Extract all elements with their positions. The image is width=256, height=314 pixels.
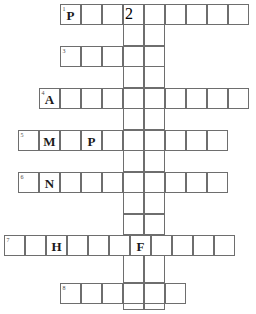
crossword-cell[interactable] [228, 88, 249, 109]
clue-number: 8 [63, 285, 66, 291]
crossword-cell[interactable] [186, 4, 207, 25]
crossword-cell[interactable] [102, 4, 123, 25]
crossword-cell[interactable] [207, 4, 228, 25]
clue-number: 7 [7, 237, 10, 243]
crossword-cell[interactable]: 7 [4, 235, 25, 256]
crossword-cell[interactable] [102, 88, 123, 109]
crossword-cell[interactable] [123, 283, 144, 304]
crossword-cell[interactable]: 3 [60, 46, 81, 67]
crossword-cell[interactable] [172, 235, 193, 256]
crossword-cell[interactable]: 8 [60, 283, 81, 304]
down-word-segment[interactable] [144, 214, 165, 235]
crossword-cell[interactable] [123, 88, 144, 109]
cell-letter: P [61, 9, 80, 22]
crossword-cell[interactable] [109, 235, 130, 256]
crossword-cell[interactable] [102, 283, 123, 304]
crossword-cell[interactable] [165, 4, 186, 25]
crossword-cell[interactable] [60, 130, 81, 151]
crossword-cell[interactable]: 4A [39, 88, 60, 109]
crossword-cell[interactable] [102, 46, 123, 67]
crossword-cell[interactable]: N [39, 172, 60, 193]
crossword-cell[interactable] [186, 172, 207, 193]
crossword-cell[interactable] [214, 235, 235, 256]
crossword-cell[interactable]: 5 [18, 130, 39, 151]
crossword-cell[interactable] [186, 88, 207, 109]
cell-letter: P [82, 135, 101, 148]
cell-letter: A [40, 93, 59, 106]
crossword-cell[interactable] [165, 172, 186, 193]
cell-letter: M [40, 135, 59, 148]
crossword-cell[interactable] [144, 172, 165, 193]
crossword-cell[interactable] [144, 46, 165, 67]
crossword-cell[interactable] [207, 130, 228, 151]
down-word-segment[interactable] [123, 214, 144, 235]
clue-number: 3 [63, 48, 66, 54]
clue-number: 5 [21, 132, 24, 138]
clue-number: 6 [21, 174, 24, 180]
cell-letter: F [131, 240, 150, 253]
crossword-cell[interactable] [123, 172, 144, 193]
crossword-cell[interactable] [81, 88, 102, 109]
cell-letter: N [40, 177, 59, 190]
crossword-cell[interactable]: M [39, 130, 60, 151]
clue-number: 2 [125, 5, 133, 23]
crossword-cell[interactable] [25, 235, 46, 256]
crossword-cell[interactable] [81, 4, 102, 25]
crossword-cell[interactable] [186, 130, 207, 151]
crossword-cell[interactable] [67, 235, 88, 256]
crossword-cell[interactable] [123, 130, 144, 151]
crossword-cell[interactable] [60, 172, 81, 193]
crossword-cell[interactable] [102, 130, 123, 151]
crossword-cell[interactable] [165, 130, 186, 151]
crossword-cell[interactable] [144, 130, 165, 151]
crossword-cell[interactable] [165, 88, 186, 109]
crossword-cell[interactable] [144, 4, 165, 25]
crossword-cell[interactable] [123, 46, 144, 67]
crossword-cell[interactable] [151, 235, 172, 256]
crossword-cell[interactable]: P [81, 130, 102, 151]
crossword-cell[interactable] [207, 88, 228, 109]
crossword-cell[interactable] [144, 283, 165, 304]
crossword-cell[interactable] [60, 88, 81, 109]
crossword-cell[interactable] [207, 172, 228, 193]
crossword-cell[interactable]: 1P [60, 4, 81, 25]
crossword-cell[interactable]: 6 [18, 172, 39, 193]
crossword-cell[interactable] [165, 283, 186, 304]
crossword-cell[interactable] [88, 235, 109, 256]
crossword-cell[interactable] [81, 46, 102, 67]
crossword-cell[interactable] [102, 172, 123, 193]
crossword-cell[interactable]: F [130, 235, 151, 256]
crossword-cell[interactable] [144, 88, 165, 109]
cell-letter: H [47, 240, 66, 253]
crossword-cell[interactable] [81, 283, 102, 304]
crossword-cell[interactable] [81, 172, 102, 193]
crossword-grid: 1P34A5MP6N7HF82 [0, 0, 256, 314]
crossword-cell[interactable] [228, 4, 249, 25]
crossword-cell[interactable]: H [46, 235, 67, 256]
crossword-cell[interactable] [193, 235, 214, 256]
